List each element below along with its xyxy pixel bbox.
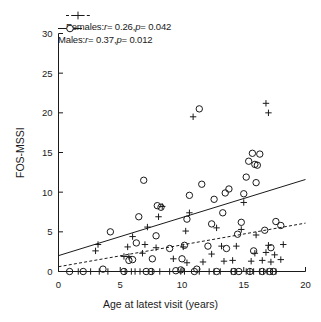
data-point-female bbox=[259, 257, 265, 263]
data-point-male bbox=[133, 240, 139, 246]
data-point-male bbox=[149, 256, 155, 262]
data-point-male bbox=[196, 106, 202, 112]
plot-canvas: 05101520253005101520 bbox=[0, 0, 321, 322]
data-point-male bbox=[245, 158, 251, 164]
data-point-male bbox=[220, 210, 226, 216]
data-point-female bbox=[263, 100, 269, 106]
data-point-male bbox=[205, 243, 211, 249]
data-point-female bbox=[208, 251, 214, 257]
axis-tick-labels: 05101520253005101520 bbox=[42, 28, 311, 290]
data-point-female bbox=[278, 256, 284, 262]
data-point-male bbox=[243, 174, 249, 180]
data-point-male bbox=[211, 196, 217, 202]
data-point-male bbox=[153, 233, 159, 239]
x-tick-label: 5 bbox=[118, 279, 123, 290]
data-point-female bbox=[190, 114, 196, 120]
data-point-female bbox=[248, 258, 254, 264]
y-tick-label: 15 bbox=[42, 147, 53, 158]
data-point-female bbox=[139, 250, 145, 256]
x-tick-label: 15 bbox=[238, 279, 249, 290]
x-tick-label: 10 bbox=[177, 279, 188, 290]
data-point-female bbox=[229, 257, 235, 263]
data-point-male bbox=[184, 216, 190, 222]
data-point-male bbox=[238, 219, 244, 225]
data-point-male bbox=[166, 245, 172, 251]
y-tick-label: 20 bbox=[42, 107, 53, 118]
data-point-female bbox=[153, 245, 159, 251]
data-point-male bbox=[199, 181, 205, 187]
data-point-male bbox=[107, 229, 113, 235]
legend-entry-males: Males:r= 0.37,p= 0.012 bbox=[58, 23, 152, 45]
data-point-female bbox=[129, 233, 135, 239]
data-point-male bbox=[241, 191, 247, 197]
data-point-female bbox=[155, 214, 161, 220]
data-point-female bbox=[157, 268, 163, 274]
data-point-female bbox=[124, 244, 130, 250]
data-point-female bbox=[170, 256, 176, 262]
legend-label-males-prefix: Males: bbox=[58, 34, 85, 45]
legend-marker-females-icon bbox=[66, 10, 92, 21]
data-point-male bbox=[129, 256, 135, 262]
data-points bbox=[66, 100, 286, 275]
data-point-female bbox=[268, 259, 274, 265]
data-point-male bbox=[186, 192, 192, 198]
y-axis-label: FOS-MSSI bbox=[14, 127, 26, 178]
data-point-female bbox=[137, 268, 143, 274]
y-tick-label: 25 bbox=[42, 68, 53, 79]
data-point-male bbox=[249, 150, 255, 156]
x-tick-label: 20 bbox=[300, 279, 311, 290]
x-tick-label: 0 bbox=[56, 279, 61, 290]
data-point-male bbox=[208, 221, 214, 227]
data-point-female bbox=[200, 259, 206, 265]
y-tick-label: 0 bbox=[47, 266, 52, 277]
data-point-male bbox=[253, 179, 259, 185]
data-point-male bbox=[223, 245, 229, 251]
data-point-female bbox=[87, 268, 93, 274]
x-axis-label: Age at latest visit (years) bbox=[0, 298, 321, 310]
y-tick-label: 5 bbox=[47, 226, 52, 237]
data-point-male bbox=[179, 256, 185, 262]
data-point-male bbox=[226, 186, 232, 192]
axis-lines bbox=[59, 34, 306, 272]
series-males bbox=[66, 106, 284, 275]
legend-label-males-p-value: = 0.012 bbox=[122, 34, 153, 45]
y-tick-label: 10 bbox=[42, 187, 53, 198]
legend-marker-males-icon bbox=[58, 23, 84, 34]
data-point-male bbox=[158, 204, 164, 210]
data-point-female bbox=[241, 199, 247, 205]
data-point-male bbox=[257, 151, 263, 157]
data-point-female bbox=[271, 252, 277, 258]
data-point-female bbox=[142, 241, 148, 247]
data-point-female bbox=[280, 241, 286, 247]
y-tick-label: 30 bbox=[42, 28, 53, 39]
data-point-male bbox=[136, 214, 142, 220]
data-point-female bbox=[250, 268, 256, 274]
scatter-plot-figure: Females:r= 0.26,p= 0.042 Males:r= 0.37,p… bbox=[0, 0, 321, 322]
axis-ticks bbox=[59, 34, 306, 272]
data-point-male bbox=[154, 202, 160, 208]
data-point-female bbox=[92, 248, 98, 254]
data-point-female bbox=[217, 268, 223, 274]
data-point-male bbox=[222, 190, 228, 196]
data-point-male bbox=[141, 177, 147, 183]
series-females bbox=[75, 100, 286, 275]
data-point-female bbox=[166, 268, 172, 274]
data-point-female bbox=[221, 258, 227, 264]
data-point-female bbox=[265, 110, 271, 116]
data-point-female bbox=[253, 232, 259, 238]
legend-label-males-r-value: = 0.37, bbox=[88, 34, 116, 45]
data-point-female bbox=[183, 228, 189, 234]
data-point-female bbox=[233, 243, 239, 249]
